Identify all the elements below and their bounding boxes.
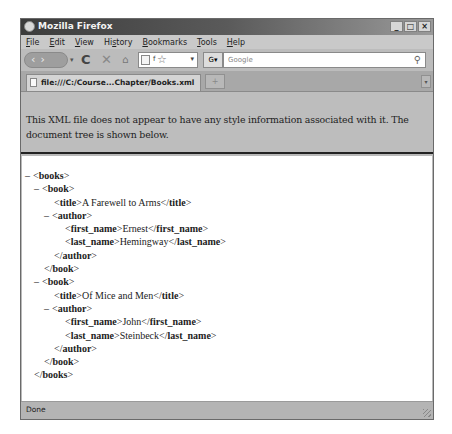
bookmark-star-icon[interactable]: ☆ [157, 53, 167, 66]
menu-history[interactable]: History [104, 38, 132, 47]
xml-line: </author> [22, 249, 432, 262]
xml-tree-view: –<books>–<book><title>A Farewell to Arms… [22, 156, 432, 402]
xml-line: <first_name>Ernest</first_name> [22, 222, 432, 235]
notice-text: This XML file does not appear to have an… [26, 114, 409, 140]
home-icon[interactable]: ⌂ [122, 52, 128, 68]
xml-tag: <author> [52, 303, 92, 314]
search-icon[interactable]: ⚲ [414, 53, 421, 67]
close-button[interactable]: × [418, 21, 431, 32]
xml-tag: <title> [54, 197, 82, 208]
xml-line: –<book> [22, 275, 432, 288]
forward-button[interactable]: › [40, 53, 49, 66]
reload-icon[interactable]: C [81, 52, 91, 68]
menu-help[interactable]: Help [227, 38, 245, 47]
xml-tag: <book> [42, 276, 74, 287]
title-bar[interactable]: Mozilla Firefox _ □ × [21, 19, 433, 35]
menu-tools[interactable]: Tools [197, 38, 217, 47]
xml-line: </book> [22, 355, 432, 368]
xml-line: –<books> [22, 169, 432, 182]
navigation-toolbar: ‹› ▾ C ✕ ⌂ f ☆ ▾ G▾ Google ⚲ [21, 49, 433, 71]
xml-tag: <title> [54, 290, 82, 301]
search-input[interactable]: Google ⚲ [223, 52, 426, 68]
xml-line: <first_name>John</first_name> [22, 315, 432, 328]
collapse-toggle-icon[interactable]: – [34, 183, 39, 194]
tab-list-button[interactable]: ▾ [421, 75, 431, 88]
xml-tag: <last_name> [65, 236, 120, 247]
maximize-button[interactable]: □ [404, 21, 417, 32]
xml-tag: </last_name> [169, 236, 226, 247]
xml-line: –<author> [22, 302, 432, 315]
minimize-button[interactable]: _ [390, 21, 403, 32]
collapse-toggle-icon[interactable]: – [34, 276, 39, 287]
back-forward-buttons: ‹› [24, 52, 68, 68]
xml-line: <last_name>Hemingway</last_name> [22, 235, 432, 248]
page-icon [141, 55, 150, 65]
xml-text-value: Steinbeck [120, 330, 159, 341]
xml-line: </books> [22, 368, 432, 381]
history-dropdown-icon[interactable]: ▾ [70, 52, 74, 68]
xml-line: <title>A Farewell to Arms</title> [22, 196, 432, 209]
xml-tag: </first_name> [148, 223, 208, 234]
xml-line: </book> [22, 262, 432, 275]
xml-line: <last_name>Steinbeck</last_name> [22, 329, 432, 342]
xml-tag: </author> [54, 250, 97, 261]
xml-line: </author> [22, 342, 432, 355]
browser-window: Mozilla Firefox _ □ × File Edit View His… [20, 18, 434, 420]
xml-line: –<author> [22, 209, 432, 222]
xml-tag: </book> [44, 356, 79, 367]
window-title: Mozilla Firefox [38, 21, 113, 31]
xml-text-value: A Farewell to Arms [82, 197, 161, 208]
menu-file[interactable]: File [26, 38, 39, 47]
page-icon [30, 78, 37, 87]
tab-bar: file:///C:/Course...Chapter/Books.xml + … [21, 71, 433, 92]
firefox-logo-icon [24, 21, 35, 32]
xml-line: <title>Of Mice and Men</title> [22, 289, 432, 302]
menu-bookmarks[interactable]: Bookmarks [142, 38, 187, 47]
xml-tag: </book> [44, 263, 79, 274]
tab-label: file:///C:/Course...Chapter/Books.xml [41, 78, 194, 87]
tab-books-xml[interactable]: file:///C:/Course...Chapter/Books.xml [26, 74, 201, 91]
menu-edit[interactable]: Edit [49, 38, 65, 47]
menu-bar: File Edit View History Bookmarks Tools H… [21, 35, 433, 49]
xml-line: –<book> [22, 182, 432, 195]
xml-tag: <first_name> [65, 316, 122, 327]
window-controls: _ □ × [390, 21, 431, 32]
xml-tag: </title> [161, 197, 192, 208]
back-button[interactable]: ‹ [31, 53, 40, 66]
xml-tag: </first_name> [141, 316, 201, 327]
xml-tag: </last_name> [159, 330, 216, 341]
xml-tag: </books> [34, 369, 73, 380]
search-engine-selector[interactable]: G▾ [203, 52, 223, 68]
xml-tag: </author> [54, 343, 97, 354]
collapse-toggle-icon[interactable]: – [44, 210, 49, 221]
resize-grip-icon[interactable] [423, 409, 431, 417]
xml-text-value: Of Mice and Men [82, 290, 153, 301]
status-bar: Done [21, 401, 433, 419]
search-placeholder: Google [228, 56, 253, 64]
xml-text-value: Hemingway [120, 236, 169, 247]
url-input[interactable]: f [153, 55, 155, 63]
xml-text-value: Ernest [122, 223, 148, 234]
url-dropdown-icon[interactable]: ▾ [190, 55, 194, 63]
xml-tag: <last_name> [65, 330, 120, 341]
xml-tag: <first_name> [65, 223, 122, 234]
new-tab-button[interactable]: + [205, 74, 225, 89]
collapse-toggle-icon[interactable]: – [44, 303, 49, 314]
collapse-toggle-icon[interactable]: – [25, 170, 30, 181]
xml-tag: <books> [33, 170, 69, 181]
url-bar[interactable]: f ☆ ▾ [138, 52, 198, 68]
xml-tag: </title> [153, 290, 184, 301]
status-text: Done [26, 405, 46, 414]
menu-view[interactable]: View [75, 38, 94, 47]
xml-style-notice: This XML file does not appear to have an… [21, 92, 433, 154]
xml-tag: <author> [52, 210, 92, 221]
stop-icon[interactable]: ✕ [101, 52, 112, 68]
xml-tag: <book> [42, 183, 74, 194]
xml-text-value: John [122, 316, 141, 327]
